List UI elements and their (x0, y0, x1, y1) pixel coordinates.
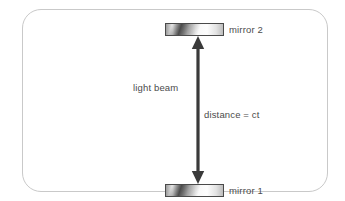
mirror-1-bar (165, 184, 224, 197)
figure-root: mirror 2 mirror 1 light beam distance = … (0, 0, 345, 201)
diagram-frame: mirror 2 mirror 1 light beam distance = … (22, 9, 328, 192)
mirror-2-label: mirror 2 (229, 24, 263, 35)
mirror-2-bar (165, 23, 224, 36)
mirror-1-label: mirror 1 (229, 185, 263, 196)
distance-label: distance = ct (204, 109, 260, 120)
light-beam-label: light beam (133, 82, 178, 93)
arrowhead-up-icon (192, 36, 204, 49)
arrowhead-down-icon (192, 171, 204, 184)
